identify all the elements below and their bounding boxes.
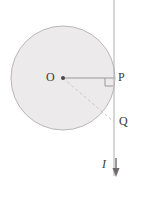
diagram-canvas [0,0,142,210]
center-point-dot [61,76,65,80]
physics-diagram: O P Q I [0,0,142,210]
label-point-p: P [118,71,125,83]
label-center-o: O [46,71,55,83]
label-point-q: Q [119,115,128,127]
label-current-i: I [102,158,106,170]
